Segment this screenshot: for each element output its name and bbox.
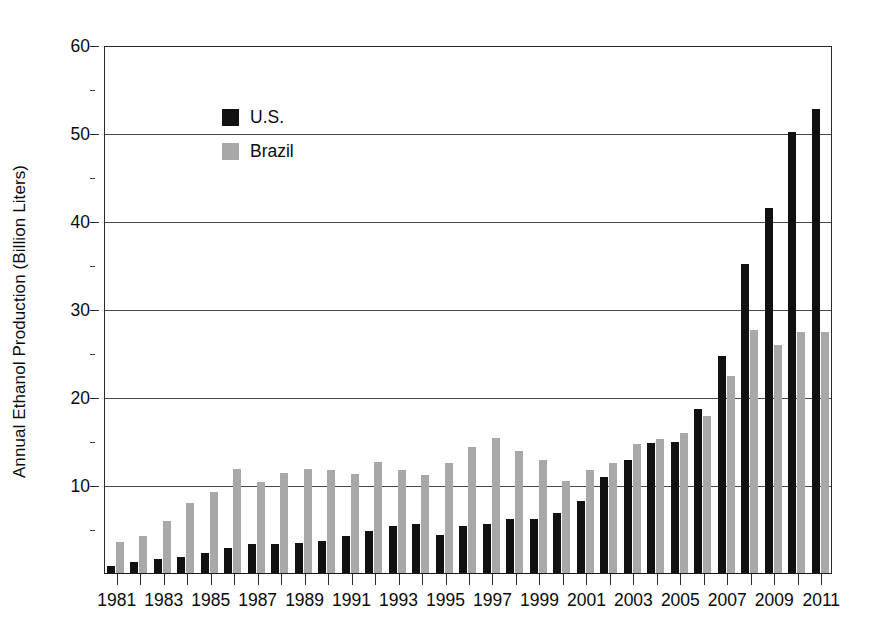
bar-group: [412, 46, 435, 574]
y-axis-tick-label: 20: [44, 388, 90, 409]
bar-us-1991: [342, 536, 350, 574]
x-axis-tick-label: 2003: [614, 590, 653, 611]
bar-us-1986: [224, 548, 232, 574]
bar-group: [483, 46, 506, 574]
x-axis-tick-label: 1993: [379, 590, 418, 611]
x-axis-tick-mark: [821, 574, 822, 585]
bar-brazil-1981: [116, 542, 124, 574]
bar-brazil-1995: [445, 463, 453, 574]
bar-us-2006: [694, 409, 702, 574]
bar-series-container: [104, 46, 832, 574]
bar-brazil-1982: [139, 536, 147, 574]
x-axis-tick-mark: [657, 574, 658, 585]
y-axis-tick-label: 60: [44, 36, 90, 57]
x-axis-tick-label: 1995: [426, 590, 465, 611]
bar-group: [647, 46, 670, 574]
bar-us-1985: [201, 553, 209, 574]
x-axis-tick-label: 2011: [802, 590, 840, 611]
x-axis-tick-label: 1991: [332, 590, 371, 611]
x-axis-tick-label: 2005: [661, 590, 700, 611]
bar-group: [201, 46, 224, 574]
bar-group: [600, 46, 623, 574]
bar-us-1993: [389, 526, 397, 574]
bar-us-1996: [459, 526, 467, 574]
y-axis-tick-mark: [90, 310, 99, 311]
bar-us-1999: [530, 519, 538, 574]
x-axis-tick-mark: [469, 574, 470, 585]
bar-us-2001: [577, 501, 585, 574]
bar-brazil-2001: [586, 470, 594, 574]
x-axis-tick-mark: [516, 574, 517, 585]
bar-brazil-1990: [327, 470, 335, 574]
x-axis-tick-label: 1999: [520, 590, 559, 611]
bar-group: [741, 46, 764, 574]
x-axis-tick-label: 2009: [755, 590, 794, 611]
bar-brazil-1991: [351, 474, 359, 574]
bar-us-1984: [177, 557, 185, 574]
bar-brazil-1985: [210, 492, 218, 574]
bar-brazil-1989: [304, 469, 312, 574]
x-axis-tick-mark: [774, 574, 775, 585]
bar-us-2004: [647, 443, 655, 574]
legend-item-us: U.S.: [222, 100, 372, 134]
x-axis-tick-mark: [352, 574, 353, 585]
x-axis-tick-label: 1989: [285, 590, 324, 611]
bar-brazil-2011: [821, 332, 829, 574]
legend-label: Brazil: [250, 141, 294, 162]
bar-group: [624, 46, 647, 574]
bar-brazil-2007: [727, 376, 735, 574]
bar-us-1995: [436, 535, 444, 574]
bar-us-2008: [741, 264, 749, 574]
bar-us-1983: [154, 559, 162, 574]
y-axis-minor-tick-mark: [90, 530, 95, 531]
bar-group: [718, 46, 741, 574]
bar-us-2007: [718, 356, 726, 574]
x-axis-tick-mark: [798, 574, 799, 585]
x-axis-tick-mark: [187, 574, 188, 585]
bar-us-2011: [812, 109, 820, 574]
bar-brazil-1992: [374, 462, 382, 574]
x-axis-tick-mark: [375, 574, 376, 585]
x-axis-tick-mark: [328, 574, 329, 585]
bar-us-1981: [107, 566, 115, 574]
x-axis-tick-label: 2007: [708, 590, 747, 611]
bar-brazil-1993: [398, 470, 406, 574]
x-axis-tick-mark: [305, 574, 306, 585]
bar-us-1988: [271, 544, 279, 574]
bar-brazil-2003: [633, 444, 641, 574]
x-axis-tick-mark: [586, 574, 587, 585]
x-axis-tick-mark: [211, 574, 212, 585]
x-axis-tick-mark: [164, 574, 165, 585]
x-axis-tick-mark: [258, 574, 259, 585]
y-axis-minor-tick-mark: [90, 178, 95, 179]
x-axis-tick-label: 2001: [567, 590, 606, 611]
bar-brazil-2005: [680, 433, 688, 574]
bar-brazil-1996: [468, 447, 476, 574]
x-axis-tick-mark: [446, 574, 447, 585]
bar-us-1990: [318, 541, 326, 574]
bar-us-2000: [553, 513, 561, 574]
bar-brazil-1998: [515, 451, 523, 574]
bar-brazil-2006: [703, 416, 711, 574]
bar-brazil-2000: [562, 481, 570, 574]
legend-label: U.S.: [250, 107, 284, 128]
bar-brazil-1994: [421, 475, 429, 574]
y-axis-tick-label: 40: [44, 212, 90, 233]
x-axis-tick-mark: [680, 574, 681, 585]
bar-brazil-1988: [280, 473, 288, 574]
bar-group: [436, 46, 459, 574]
x-axis-tick-mark: [117, 574, 118, 585]
bar-group: [765, 46, 788, 574]
x-axis-tick-label: 1981: [97, 590, 136, 611]
legend: U.S.Brazil: [222, 92, 372, 168]
legend-item-brazil: Brazil: [222, 134, 372, 168]
bar-brazil-1984: [186, 503, 194, 574]
x-axis-tick-mark: [234, 574, 235, 585]
bar-group: [577, 46, 600, 574]
y-axis-tick-label: 50: [44, 124, 90, 145]
y-axis-minor-tick-mark: [90, 354, 95, 355]
bar-group: [788, 46, 811, 574]
bar-group: [107, 46, 130, 574]
bar-brazil-1983: [163, 521, 171, 574]
bar-group: [812, 46, 835, 574]
